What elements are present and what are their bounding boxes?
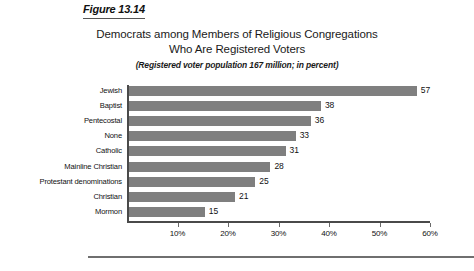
figure-caption: Figure 13.14: [83, 3, 145, 19]
bar-value-label: 15: [209, 206, 218, 216]
x-tick-mark: [430, 223, 431, 227]
x-tick-label: 40%: [321, 229, 337, 238]
bar: [129, 131, 296, 141]
bar-row: 25: [129, 177, 432, 187]
bar: [129, 207, 205, 217]
category-label: Mainline Christian: [0, 162, 122, 172]
x-tick-mark: [178, 223, 179, 227]
category-axis-labels: JewishBaptistPentecostalNoneCatholicMain…: [0, 85, 122, 221]
bar: [129, 192, 235, 202]
bar-row: 15: [129, 207, 432, 217]
x-tick-mark: [329, 223, 330, 227]
bar-value-label: 31: [290, 145, 299, 155]
bar-value-label: 33: [300, 130, 309, 140]
category-label: Baptist: [0, 101, 122, 111]
bar: [129, 177, 255, 187]
bottom-divider: [88, 256, 474, 258]
category-label: Catholic: [0, 146, 122, 156]
bar: [129, 146, 286, 156]
category-label: Pentecostal: [0, 116, 122, 126]
bar-rows: 573836333128252115: [129, 85, 432, 221]
bar-row: 57: [129, 86, 432, 96]
category-label: Christian: [0, 192, 122, 202]
bar-row: 33: [129, 131, 432, 141]
bar-value-label: 21: [239, 191, 248, 201]
gridline-60: [432, 85, 433, 221]
x-tick-mark: [228, 223, 229, 227]
bar-value-label: 36: [315, 115, 324, 125]
x-tick-mark: [279, 223, 280, 227]
x-axis-ticks: 10%20%30%40%50%60%: [127, 223, 430, 243]
bar: [129, 116, 311, 126]
chart-title-line-1: Democrats among Members of Religious Con…: [0, 27, 474, 42]
bar-row: 36: [129, 116, 432, 126]
bar-value-label: 28: [274, 161, 283, 171]
chart-subtitle: (Registered voter population 167 million…: [0, 60, 474, 70]
bar: [129, 101, 321, 111]
x-tick-mark: [380, 223, 381, 227]
bar-value-label: 25: [259, 176, 268, 186]
chart-title: Democrats among Members of Religious Con…: [0, 27, 474, 56]
category-label: Jewish: [0, 86, 122, 96]
category-label: None: [0, 131, 122, 141]
bar-row: 21: [129, 192, 432, 202]
bar-row: 28: [129, 162, 432, 172]
bar-row: 31: [129, 146, 432, 156]
category-label: Protestant denominations: [0, 177, 122, 187]
chart-title-block: Democrats among Members of Religious Con…: [0, 27, 474, 70]
bar-value-label: 57: [421, 85, 430, 95]
x-tick-label: 30%: [271, 229, 287, 238]
x-tick-label: 60%: [422, 229, 438, 238]
bar-row: 38: [129, 101, 432, 111]
bar: [129, 86, 417, 96]
plot-area: 573836333128252115: [127, 85, 432, 221]
chart-title-line-2: Who Are Registered Voters: [0, 42, 474, 57]
x-tick-label: 50%: [372, 229, 388, 238]
x-tick-label: 20%: [220, 229, 236, 238]
category-label: Mormon: [0, 207, 122, 217]
x-tick-label: 10%: [170, 229, 186, 238]
bar-value-label: 38: [325, 100, 334, 110]
bar: [129, 162, 270, 172]
